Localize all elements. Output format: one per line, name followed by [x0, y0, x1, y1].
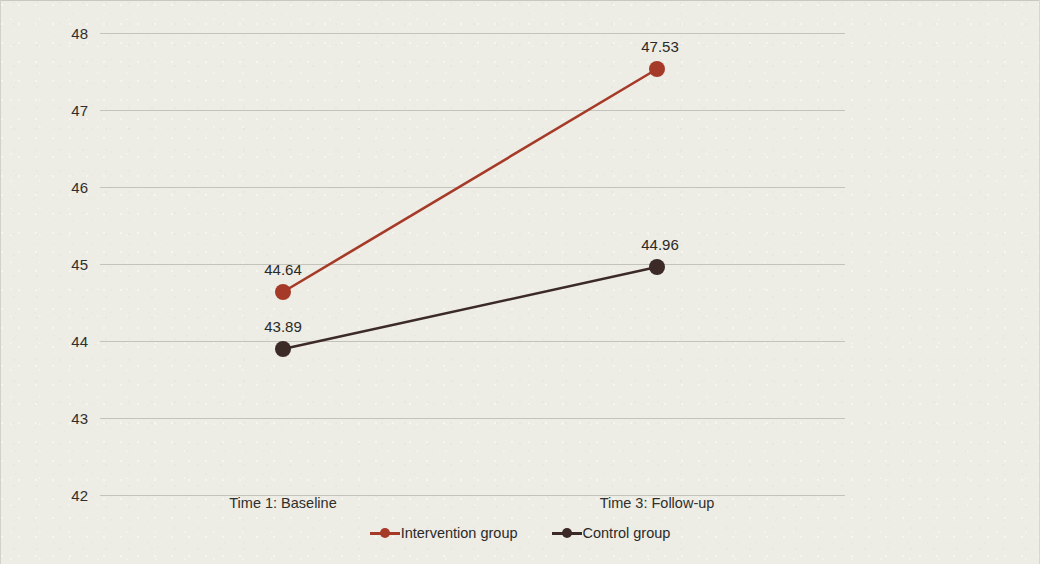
data-label-intervention-followup: 47.53	[641, 38, 679, 55]
series-lines-layer	[0, 0, 1040, 564]
legend-label-control: Control group	[583, 525, 671, 541]
control-point-baseline[interactable]	[275, 341, 291, 357]
legend-label-intervention: Intervention group	[401, 525, 518, 541]
control-point-followup[interactable]	[649, 259, 665, 275]
legend-marker-intervention-icon	[370, 527, 400, 539]
x-axis-label-followup: Time 3: Follow-up	[600, 495, 715, 511]
plot-area: 48 47 46 45 44 43 42 44.64 47.53 43.89 4…	[0, 0, 1040, 564]
legend-marker-control-icon	[552, 527, 582, 539]
data-label-intervention-baseline: 44.64	[264, 261, 302, 278]
chart-page: 48 47 46 45 44 43 42 44.64 47.53 43.89 4…	[0, 0, 1040, 564]
intervention-line	[283, 69, 657, 292]
data-label-control-baseline: 43.89	[264, 318, 302, 335]
x-axis-label-baseline: Time 1: Baseline	[229, 495, 336, 511]
intervention-point-baseline[interactable]	[275, 284, 291, 300]
legend-item-control[interactable]: Control group	[552, 525, 671, 541]
legend-item-intervention[interactable]: Intervention group	[370, 525, 518, 541]
data-label-control-followup: 44.96	[641, 236, 679, 253]
control-line	[283, 267, 657, 349]
intervention-point-followup[interactable]	[649, 61, 665, 77]
chart-legend: Intervention group Control group	[0, 525, 1040, 541]
